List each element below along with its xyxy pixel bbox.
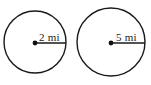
circle-radius-diagram: 2 mi 5 mi	[0, 0, 151, 85]
right-circle-radius-label: 5 mi	[116, 31, 137, 43]
diagram-canvas: 2 mi 5 mi	[0, 0, 151, 85]
right-circle-center-dot	[109, 41, 114, 46]
left-circle-center-dot	[33, 41, 38, 46]
left-circle-group: 2 mi	[4, 11, 66, 73]
right-circle-group: 5 mi	[77, 8, 145, 76]
left-circle-radius-label: 2 mi	[39, 31, 60, 43]
